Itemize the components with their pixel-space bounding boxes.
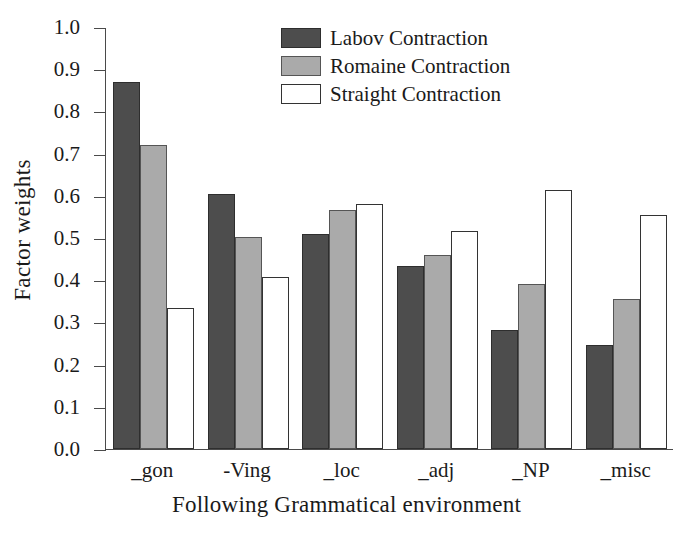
bar	[424, 255, 451, 449]
bar	[262, 277, 289, 449]
bar	[167, 308, 194, 449]
bar	[518, 284, 545, 449]
y-axis-tick: 0.6	[94, 197, 106, 198]
legend-item: Romaine Contraction	[281, 55, 510, 77]
x-axis-tick-labels: _gon-Ving_loc_adj_NP_misc	[105, 455, 673, 489]
y-axis-tick: 0.0	[94, 450, 106, 451]
bar	[356, 204, 383, 449]
y-axis-tick: 0.3	[94, 323, 106, 324]
legend-swatch	[281, 56, 321, 76]
bar	[586, 345, 613, 449]
y-axis-tick: 1.0	[94, 28, 106, 29]
x-axis-title: Following Grammatical environment	[0, 492, 693, 518]
bar	[613, 299, 640, 449]
y-axis-title-text: Factor weights	[10, 159, 36, 301]
y-axis-tick-label: 0.9	[54, 59, 80, 80]
legend-swatch	[281, 84, 321, 104]
bar-group	[106, 28, 201, 449]
x-axis-tick-label: _NP	[484, 455, 579, 489]
bar	[302, 234, 329, 449]
y-axis-tick: 0.1	[94, 408, 106, 409]
y-axis-tick-label: 0.2	[54, 355, 80, 376]
x-axis-line	[105, 449, 673, 450]
y-axis-tick-label: 0.0	[54, 439, 80, 460]
bar	[140, 145, 167, 449]
x-axis-tick-label: _gon	[105, 455, 200, 489]
y-axis-tick: 0.8	[94, 112, 106, 113]
y-axis-title: Factor weights	[0, 0, 46, 460]
bar-group	[579, 28, 674, 449]
y-axis-tick-label: 0.7	[54, 144, 80, 165]
legend-swatch	[281, 28, 321, 48]
y-axis-tick-label: 0.8	[54, 101, 80, 122]
x-axis-tick-label: -Ving	[200, 455, 295, 489]
y-axis-tick-label: 0.6	[54, 186, 80, 207]
y-axis-tick-label: 0.3	[54, 312, 80, 333]
legend-label: Labov Contraction	[330, 28, 488, 49]
bar	[451, 231, 478, 449]
y-axis-tick: 0.2	[94, 366, 106, 367]
chart-figure: Factor weights 0.00.10.20.30.40.50.60.70…	[0, 0, 693, 552]
bar	[640, 215, 667, 449]
y-axis-tick: 0.5	[94, 239, 106, 240]
chart-legend: Labov ContractionRomaine ContractionStra…	[281, 27, 510, 105]
x-axis-tick-label: _adj	[389, 455, 484, 489]
bar	[491, 330, 518, 449]
x-axis-tick-label: _misc	[578, 455, 673, 489]
bar	[397, 266, 424, 449]
y-axis-tick-label: 1.0	[54, 17, 80, 38]
y-axis-tick-label: 0.4	[54, 270, 80, 291]
bar	[113, 82, 140, 449]
y-axis-tick-label: 0.5	[54, 228, 80, 249]
legend-label: Straight Contraction	[330, 84, 501, 105]
y-axis-tick: 0.4	[94, 281, 106, 282]
bar	[545, 190, 572, 449]
legend-label: Romaine Contraction	[330, 56, 510, 77]
bar	[208, 194, 235, 449]
legend-item: Straight Contraction	[281, 83, 510, 105]
y-axis-tick: 0.7	[94, 155, 106, 156]
y-axis-tick: 0.9	[94, 70, 106, 71]
bar	[235, 237, 262, 449]
bar	[329, 210, 356, 449]
legend-item: Labov Contraction	[281, 27, 510, 49]
x-axis-tick-label: _loc	[294, 455, 389, 489]
y-axis-tick-label: 0.1	[54, 397, 80, 418]
